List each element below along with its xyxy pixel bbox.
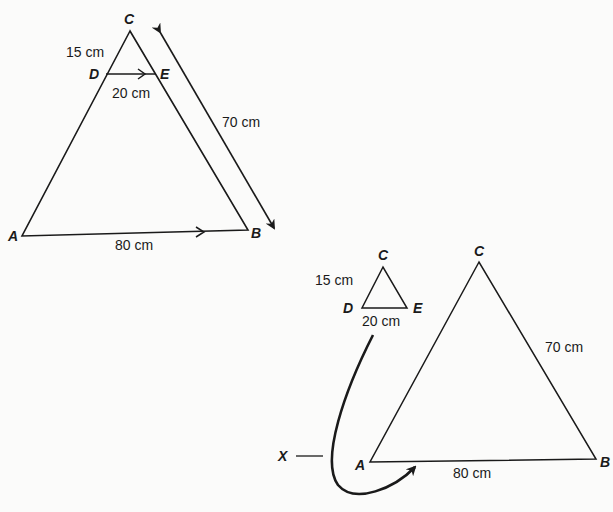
x-pointer: X <box>277 448 323 464</box>
double-arrow-cb <box>160 32 274 228</box>
small-vertex-c-label: C <box>378 247 389 263</box>
length-ab: 80 cm <box>115 237 153 253</box>
vertex-b-label: B <box>251 225 261 241</box>
triangle-abc <box>22 31 248 236</box>
small-vertex-e-label: E <box>413 300 423 316</box>
small-vertex-d-label: D <box>343 300 353 316</box>
small-length-cd: 15 cm <box>315 272 353 288</box>
vertex-a-label: A <box>7 228 18 244</box>
vertex-c-label: C <box>124 11 135 27</box>
length-cd: 15 cm <box>66 44 104 60</box>
large-triangle-figure: C A B 70 cm 80 cm <box>354 243 610 481</box>
top-triangle-figure: C D E A B 15 cm 20 cm 70 cm 80 cm <box>7 11 274 253</box>
vertex-d-label: D <box>89 66 99 82</box>
pointer-x-label: X <box>277 448 289 464</box>
length-de: 20 cm <box>112 85 150 101</box>
small-length-de: 20 cm <box>362 313 400 329</box>
large-vertex-a-label: A <box>354 457 365 473</box>
large-length-cb: 70 cm <box>545 339 583 355</box>
curved-mapping-arrow <box>332 335 415 494</box>
large-vertex-c-label: C <box>474 243 485 259</box>
large-vertex-b-label: B <box>600 454 610 470</box>
triangle-cde <box>362 267 407 308</box>
large-length-ab: 80 cm <box>453 465 491 481</box>
length-cb: 70 cm <box>222 114 260 130</box>
small-triangle-figure: C D E 15 cm 20 cm <box>315 247 423 329</box>
similar-triangles-diagram: C D E A B 15 cm 20 cm 70 cm 80 cm C D E … <box>0 0 613 512</box>
triangle-cab <box>370 262 596 462</box>
vertex-e-label: E <box>160 66 170 82</box>
